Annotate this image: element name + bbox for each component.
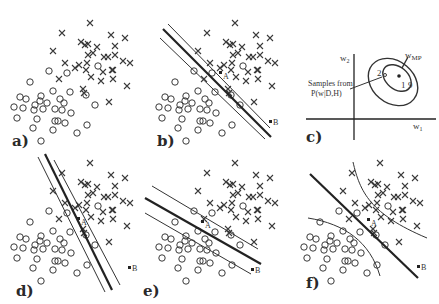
circle-point <box>23 96 29 102</box>
cross-point <box>100 69 106 75</box>
point-A-label: A <box>205 221 211 230</box>
samples-label-line2: P(w|D,H) <box>311 89 342 98</box>
cross-point <box>250 194 256 200</box>
cross-point <box>88 74 94 80</box>
cross-point <box>232 20 238 26</box>
circle-point <box>189 100 195 106</box>
cross-point <box>402 183 408 189</box>
circle-point <box>50 267 56 273</box>
cross-point <box>108 172 114 178</box>
panel-label-b: b) <box>157 132 175 150</box>
circle-point <box>52 246 58 252</box>
circle-point <box>358 250 364 256</box>
circle-point <box>30 125 36 131</box>
sample-2-label: 2 <box>377 68 382 78</box>
circle-point <box>27 219 33 225</box>
cross-point <box>122 175 128 181</box>
circle-point <box>324 256 330 262</box>
circle-point <box>14 255 20 261</box>
cross-point <box>110 76 116 82</box>
circle-point <box>44 100 50 106</box>
cross-point <box>267 175 273 181</box>
circle-point <box>313 236 319 242</box>
cross-point <box>98 218 104 224</box>
circle-point <box>204 107 210 113</box>
cross-point <box>253 32 259 38</box>
circle-point <box>57 96 63 102</box>
cross-point <box>80 86 86 92</box>
cross-point <box>251 99 257 105</box>
cross-point <box>368 179 374 185</box>
cross-point <box>105 194 111 200</box>
cross-point <box>217 65 223 71</box>
circle-point <box>84 262 90 268</box>
circle-point <box>44 240 50 246</box>
cross-point <box>232 160 238 166</box>
circle-point <box>237 242 243 248</box>
cross-point <box>257 183 263 189</box>
cross-point <box>245 209 251 215</box>
scatter-points <box>11 160 133 284</box>
point-B-marker <box>251 268 254 271</box>
circle-point <box>30 265 36 271</box>
cross-point <box>223 39 229 45</box>
cross-point <box>217 205 223 211</box>
cross-point <box>235 50 241 56</box>
cross-point <box>88 214 94 220</box>
margin-line-lower <box>160 38 265 139</box>
cross-point <box>269 83 275 89</box>
circle-point <box>67 229 73 235</box>
point-A-label: A <box>223 72 229 81</box>
cross-point <box>380 190 386 196</box>
margin-line-lower <box>145 213 251 274</box>
circle-point <box>165 245 171 251</box>
point-A-marker <box>219 71 222 74</box>
cross-point <box>362 205 368 211</box>
cross-point <box>254 67 260 73</box>
circle-point <box>59 107 65 113</box>
circle-point <box>385 203 391 209</box>
cross-point <box>251 239 257 245</box>
circle-point <box>212 229 218 235</box>
cross-point <box>56 216 62 222</box>
cross-point <box>272 60 278 66</box>
circle-point <box>179 116 185 122</box>
circle-point <box>310 245 316 251</box>
wmp-point <box>397 74 401 78</box>
circle-point <box>61 240 67 246</box>
cross-point <box>109 67 115 73</box>
cross-point <box>230 192 236 198</box>
panel-c: w2 w1 wMP 2 1 9 Samples from P(w|D,H) c) <box>306 49 436 146</box>
cross-point <box>78 39 84 45</box>
circle-point <box>195 127 201 133</box>
cross-point <box>87 20 93 26</box>
circle-point <box>40 106 46 112</box>
circle-point <box>349 247 355 253</box>
circle-point <box>168 96 174 102</box>
cross-point <box>62 60 68 66</box>
cross-point <box>94 44 100 50</box>
cross-point <box>250 54 256 60</box>
cross-point <box>124 223 130 229</box>
point-B-marker <box>417 265 420 268</box>
circle-point <box>95 63 101 69</box>
circle-point <box>168 236 174 242</box>
panel-label-f: f) <box>306 274 320 292</box>
cross-point <box>84 200 90 206</box>
cross-point <box>87 160 93 166</box>
posterior-contour-inner <box>378 59 417 96</box>
cross-point <box>120 58 126 64</box>
cross-point <box>255 76 261 82</box>
circle-point <box>27 79 33 85</box>
point-B-label: B <box>273 118 278 127</box>
circle-point <box>156 104 162 110</box>
circle-point <box>240 203 246 209</box>
cross-point <box>412 175 418 181</box>
cross-point <box>94 184 100 190</box>
panel-d: A B d) <box>11 154 138 300</box>
circle-point <box>67 89 73 95</box>
cross-point <box>221 62 227 68</box>
cross-point <box>395 194 401 200</box>
cross-point <box>124 83 130 89</box>
cross-point <box>233 74 239 80</box>
